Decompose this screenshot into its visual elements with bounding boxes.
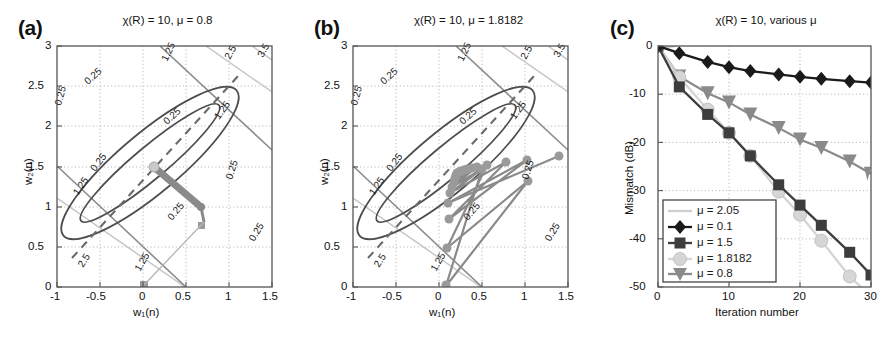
panel-c-xtick-3: 30 <box>864 290 877 302</box>
panel-c-ylabel: Mismatch (dB) <box>623 141 635 215</box>
panel-a-title: χ(R) = 10, μ = 0.8 <box>55 14 280 26</box>
panel-a-ytick-4: 2 <box>45 119 51 131</box>
panel-b-xtick-1: -0.5 <box>382 290 402 302</box>
panel-c-xtick-2: 20 <box>793 290 806 302</box>
svg-text:0.25: 0.25 <box>52 84 68 106</box>
panel-b-xtick-3: 0.5 <box>471 290 487 302</box>
series-mu-2-05 <box>658 28 722 48</box>
svg-text:0.25: 0.25 <box>165 200 186 222</box>
panel-a-ytick-5: 2.5 <box>28 79 44 91</box>
panel-c-title: χ(R) = 10, various μ <box>651 14 881 26</box>
svg-text:3.5: 3.5 <box>551 41 567 59</box>
panel-c-plot <box>596 0 896 346</box>
panel-a-xtick-1: -0.5 <box>86 290 106 302</box>
panel-c-xlabel: Iteration number <box>715 306 799 318</box>
panel-c-ytick-4: -10 <box>629 87 646 99</box>
panel-b-ytick-2: 1 <box>341 200 347 212</box>
panel-a-ytick-0: 0 <box>45 280 51 292</box>
panel-c-ytick-0: -50 <box>629 280 646 292</box>
panel-b-ylabel: w₂(n) <box>318 158 330 185</box>
legend-label-2: μ = 1.5 <box>697 236 733 248</box>
panel-c-letter: (c) <box>610 16 634 40</box>
panel-a-xtick-2: 0 <box>139 290 145 302</box>
svg-text:3.5: 3.5 <box>255 41 271 59</box>
svg-text:0.25: 0.25 <box>161 105 183 126</box>
legend-label-1: μ = 0.1 <box>697 220 733 232</box>
panel-b-ytick-4: 2 <box>341 119 347 131</box>
svg-text:0.25: 0.25 <box>348 84 364 106</box>
svg-text:1.25: 1.25 <box>367 174 387 197</box>
panel-b-title: χ(R) = 10, μ = 1.8182 <box>351 14 586 26</box>
panel-c-xtick-0: 0 <box>654 290 660 302</box>
panel-b-xtick-2: 0 <box>435 290 441 302</box>
panel-a-ytick-2: 1 <box>45 200 51 212</box>
legend-label-3: μ = 1.8182 <box>697 252 752 264</box>
panel-c-ytick-5: 0 <box>646 39 652 51</box>
figure-container: (a) χ(R) = 10, μ = 0.8 <box>0 0 896 346</box>
panel-a-ytick-1: 0.5 <box>28 240 44 252</box>
panel-a: (a) χ(R) = 10, μ = 0.8 <box>0 0 300 346</box>
panel-b-xlabel: w₁(n) <box>429 306 455 318</box>
svg-text:0.25: 0.25 <box>542 220 562 243</box>
panel-a-xtick-0: -1 <box>50 290 60 302</box>
svg-text:1.25: 1.25 <box>71 174 91 197</box>
panel-a-ytick-6: 3 <box>45 39 51 51</box>
svg-text:0.25: 0.25 <box>223 158 240 180</box>
panel-a-xlabel: w₁(n) <box>133 306 159 318</box>
svg-text:2.5: 2.5 <box>75 251 92 269</box>
panel-a-xtick-5: 1.5 <box>262 290 278 302</box>
panel-b: (b) χ(R) = 10, μ = 1.8182 <box>296 0 596 346</box>
panel-c-ytick-1: -40 <box>629 232 646 244</box>
panel-a-xtick-4: 1 <box>225 290 231 302</box>
svg-text:0.25: 0.25 <box>82 65 104 86</box>
panel-b-xtick-0: -1 <box>346 290 356 302</box>
svg-text:0.25: 0.25 <box>246 220 266 243</box>
svg-text:0.25: 0.25 <box>378 65 400 86</box>
panel-c-xtick-1: 10 <box>722 290 735 302</box>
panel-a-letter: (a) <box>18 16 42 40</box>
panel-b-ytick-6: 3 <box>341 39 347 51</box>
panel-b-xtick-4: 1 <box>521 290 527 302</box>
panel-a-xtick-3: 0.5 <box>175 290 191 302</box>
svg-text:0.25: 0.25 <box>457 105 479 126</box>
panel-b-plot: 0.25 0.25 0.25 0.25 0.25 0.25 0.25 1.25 … <box>296 0 596 346</box>
panel-b-ytick-0: 0 <box>341 280 347 292</box>
panel-a-trajectory <box>140 162 205 288</box>
panel-b-ytick-1: 0.5 <box>324 240 340 252</box>
panel-c: (c) χ(R) = 10, various μ <box>596 0 896 346</box>
legend-label-4: μ = 0.8 <box>697 267 733 279</box>
panel-a-ylabel: w₂(n) <box>22 158 34 185</box>
legend-label-0: μ = 2.05 <box>697 204 739 216</box>
panel-b-xtick-5: 1.5 <box>558 290 574 302</box>
panel-b-ytick-5: 2.5 <box>324 79 340 91</box>
panel-b-trajectory <box>442 152 564 290</box>
panel-b-letter: (b) <box>314 16 340 40</box>
panel-a-plot: 0.25 0.25 0.25 0.25 0.25 0.25 0.25 1.25 … <box>0 0 300 346</box>
svg-text:2.5: 2.5 <box>371 251 388 269</box>
series-mu-0-8 <box>658 39 871 181</box>
